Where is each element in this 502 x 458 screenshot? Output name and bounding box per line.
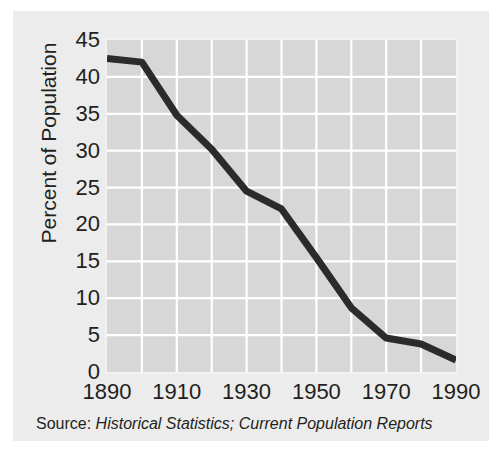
y-tick-label: 20	[48, 213, 100, 235]
data-line-series	[107, 40, 456, 372]
y-axis-tick-labels: 051015202530354045	[40, 40, 100, 372]
x-tick-label: 1910	[152, 381, 201, 403]
source-titles: Historical Statistics; Current Populatio…	[96, 415, 433, 432]
x-axis-tick-labels: 189019101930195019701990	[107, 381, 456, 411]
source-label: Source:	[36, 415, 91, 432]
x-tick-label: 1970	[362, 381, 411, 403]
y-tick-label: 45	[48, 29, 100, 51]
y-tick-label: 10	[48, 287, 100, 309]
plot-area	[107, 40, 456, 372]
y-tick-label: 25	[48, 177, 100, 199]
y-tick-label: 40	[48, 66, 100, 88]
y-tick-label: 5	[48, 324, 100, 346]
y-tick-label: 35	[48, 103, 100, 125]
x-tick-label: 1990	[432, 381, 481, 403]
x-tick-label: 1950	[292, 381, 341, 403]
y-tick-label: 30	[48, 140, 100, 162]
x-tick-label: 1890	[83, 381, 132, 403]
source-note: Source: Historical Statistics; Current P…	[36, 415, 433, 433]
x-tick-label: 1930	[222, 381, 271, 403]
y-tick-label: 15	[48, 250, 100, 272]
chart-figure: Percent of Population 051015202530354045…	[0, 0, 502, 458]
